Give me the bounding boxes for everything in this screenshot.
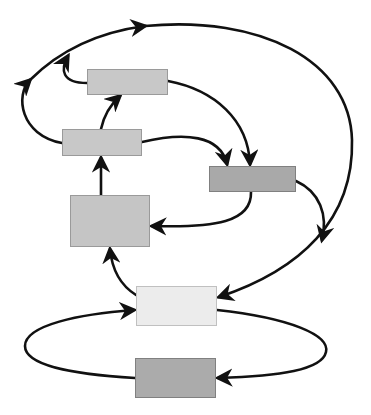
- node-c: [209, 166, 296, 192]
- edge-f-to-e: [25, 310, 135, 378]
- edge-c-to-big-arc: [296, 181, 324, 240]
- edge-a-to-c: [168, 81, 250, 164]
- node-e: [136, 286, 217, 326]
- edge-e-to-d: [110, 249, 136, 295]
- edge-c-to-d: [152, 192, 251, 226]
- node-d: [70, 195, 150, 247]
- edge-a-to-top-arc: [64, 56, 87, 83]
- edge-b-to-c: [142, 137, 227, 164]
- edge-b-to-a: [101, 96, 120, 129]
- edge-b-to-top-arc: [22, 80, 62, 143]
- edge-e-to-f: [217, 310, 326, 378]
- node-a: [87, 69, 168, 95]
- node-f: [135, 358, 216, 398]
- diagram-canvas: [0, 0, 371, 415]
- node-b: [62, 129, 142, 156]
